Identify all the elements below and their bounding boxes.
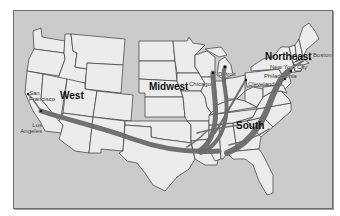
region-label-midwest: Midwest [149,82,188,92]
state-colorado [93,91,133,121]
city-dot-cleveland [245,79,247,81]
city-dot-new-york-city [290,70,292,72]
region-label-northeast: Northeast [265,52,312,62]
state-florida [227,149,273,195]
city-dot-chicago [212,72,214,74]
city-dot-los-angeles [40,110,42,112]
state-wyoming [85,63,123,93]
region-label-west: West [60,91,84,101]
city-dot-detroit [224,66,226,68]
city-label-detroit: Detroit [218,71,236,77]
city-label-philadelphia: Philadelphia [264,73,297,79]
map-frame: West Midwest Northeast South San Francis… [13,10,333,209]
city-label-cleveland: Cleveland [248,81,275,87]
city-label-los-angeles: Los Angeles [16,122,42,134]
state-kansas [145,97,185,117]
us-map [14,11,332,208]
state-north-dakota [139,41,175,61]
city-label-san-francisco: San Francisco [29,90,55,102]
state-south-dakota [139,61,177,81]
city-label-chicago: Chicago [189,81,211,87]
region-label-south: South [236,121,264,131]
city-label-new-york-city: New York City [270,64,307,70]
city-label-boston: Boston [313,52,332,58]
